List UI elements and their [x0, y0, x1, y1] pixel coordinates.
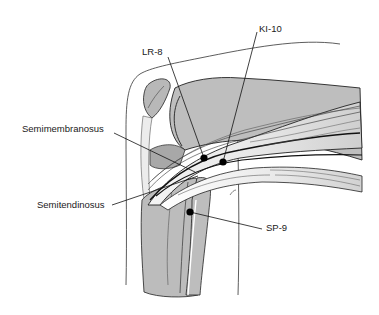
point-lr8 — [200, 154, 207, 161]
label-sp9: SP-9 — [266, 223, 287, 233]
medial-condyle — [150, 145, 185, 169]
label-lr8: LR-8 — [142, 47, 163, 57]
label-ki10: KI-10 — [259, 24, 282, 34]
knee-diagram — [0, 0, 379, 315]
point-sp9 — [186, 208, 193, 215]
label-semitendinosus: Semitendinosus — [37, 200, 105, 210]
label-semimembranosus: Semimembranosus — [22, 124, 104, 134]
point-ki10 — [219, 158, 226, 165]
